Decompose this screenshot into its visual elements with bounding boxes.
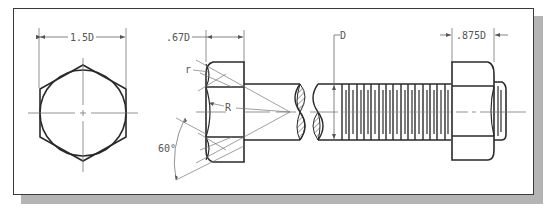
nut-side-view: .875D bbox=[440, 28, 526, 160]
hex-top-view: 1.5D bbox=[28, 28, 138, 172]
head-height-label: .67D bbox=[166, 32, 190, 43]
small-radius-label: r bbox=[185, 64, 191, 75]
bolt-drawing: 1.5D .67D bbox=[0, 0, 554, 213]
top-view-dimension-label: 1.5D bbox=[70, 32, 94, 43]
bolt-shank: D bbox=[244, 30, 452, 140]
chamfer-angle-label: 60° bbox=[158, 143, 176, 154]
radius-label: R bbox=[225, 102, 232, 113]
nut-height-label: .875D bbox=[456, 30, 486, 41]
bolt-head-side-view: .67D r R 60° bbox=[158, 30, 290, 180]
diameter-label: D bbox=[340, 30, 346, 41]
